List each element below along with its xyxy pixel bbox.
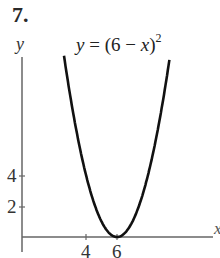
y-tick-label: 4 xyxy=(7,165,17,187)
x-tick-label: 4 xyxy=(81,241,91,258)
x-tick-label: 6 xyxy=(112,241,122,258)
plot-area: x xyxy=(0,0,220,258)
parabola-curve xyxy=(64,56,169,237)
x-axis-label: x xyxy=(213,219,220,238)
axis-ticks xyxy=(19,176,117,240)
y-tick-label: 2 xyxy=(7,196,17,218)
